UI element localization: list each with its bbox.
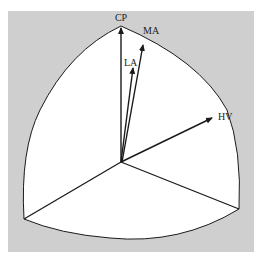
spherical-triangle-diagram: CP MA LA HV	[0, 0, 262, 261]
label-la: LA	[124, 57, 138, 68]
label-hv: HV	[218, 111, 233, 122]
label-ma: MA	[143, 25, 160, 36]
label-cp: CP	[115, 12, 128, 23]
